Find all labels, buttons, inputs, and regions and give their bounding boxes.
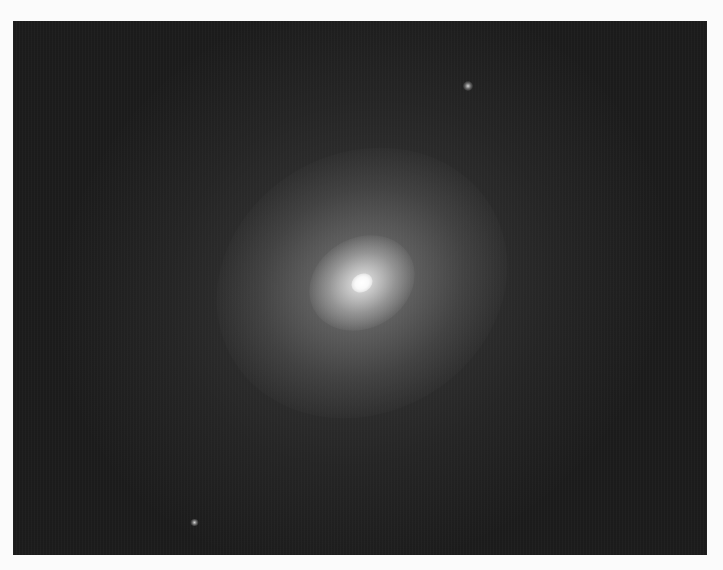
faint-star-bottom-left (190, 519, 199, 526)
galaxy-photo (13, 21, 707, 555)
faint-star-top-right (463, 81, 473, 91)
